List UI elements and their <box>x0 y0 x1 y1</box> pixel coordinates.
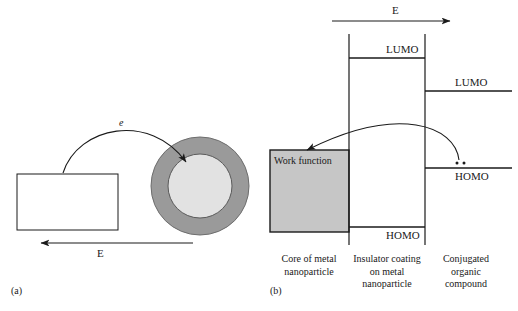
column-caption-core-line1: Core of metal <box>282 253 337 266</box>
column-caption-core-line2: nanoparticle <box>282 266 337 279</box>
panel-a: e E (a) <box>0 0 259 311</box>
panel-a-graphics <box>0 0 259 311</box>
level-label-homo-organic: HOMO <box>455 170 489 182</box>
level-label-lumo-organic: LUMO <box>455 76 487 88</box>
column-caption-organic-line3: compound <box>443 278 489 291</box>
column-caption-organic: Conjugated organic compound <box>443 253 489 291</box>
metal-core <box>168 154 232 218</box>
field-label-a: E <box>97 247 104 259</box>
figure-root: e E (a) <box>0 0 518 311</box>
electron-dot <box>463 162 466 165</box>
level-label-lumo-insulator: LUMO <box>386 43 418 55</box>
electron-label: e <box>119 117 123 128</box>
column-caption-organic-line2: organic <box>443 266 489 279</box>
column-caption-insulator-line3: nanoparticle <box>353 278 420 291</box>
column-caption-insulator-line1: Insulator coating <box>353 253 420 266</box>
column-caption-core: Core of metal nanoparticle <box>282 253 337 278</box>
electrode-rectangle <box>17 174 118 230</box>
caption-b: (b) <box>270 285 282 296</box>
column-caption-organic-line1: Conjugated <box>443 253 489 266</box>
caption-a: (a) <box>11 285 22 296</box>
column-caption-insulator-line2: on metal <box>353 266 420 279</box>
column-caption-insulator: Insulator coating on metal nanoparticle <box>353 253 420 291</box>
field-label-b: E <box>392 4 399 16</box>
level-label-homo-insulator: HOMO <box>386 229 420 241</box>
electron-dot <box>456 162 459 165</box>
panel-b: E LUMO LUMO HOMO HOMO Work function Core… <box>259 0 518 311</box>
work-function-label: Work function <box>274 155 332 166</box>
